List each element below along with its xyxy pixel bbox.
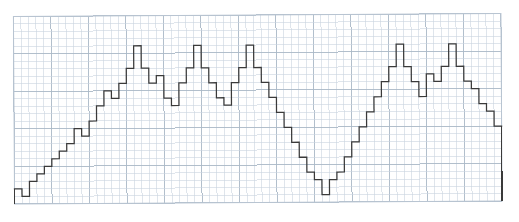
grid-line-horizontal-minor [14,96,501,99]
grid-line-vertical-minor [103,16,104,203]
grid-line-horizontal-minor [13,21,500,24]
grid-line-vertical-major [88,16,89,203]
grid-line-vertical-minor [478,14,479,201]
grid-line-horizontal-minor [14,156,501,159]
grid-line-vertical-major [201,15,202,202]
grid-line-horizontal-major [14,89,501,92]
grid-line-vertical-minor [73,16,74,203]
grid-line-vertical-minor [456,14,457,201]
grid-line-vertical-minor [448,14,449,201]
grid-line-vertical-minor [28,16,29,203]
grid-line-vertical-minor [411,14,412,201]
grid-border [13,14,502,204]
grid-line-horizontal-minor [14,59,501,62]
grid-line-vertical-minor [403,14,404,201]
grid-line-vertical-major [238,15,239,202]
grid-line-vertical-minor [306,15,307,202]
grid-line-vertical-minor [216,15,217,202]
grid-line-horizontal-minor [14,141,501,144]
grid-line-vertical-minor [66,16,67,203]
grid-line-horizontal-minor [14,104,501,107]
grid-line-vertical-minor [261,15,262,202]
grid-line-vertical-minor [118,16,119,203]
grid-line-horizontal-major [14,126,501,129]
grid-line-vertical-minor [171,16,172,203]
grid-line-horizontal-major [14,51,501,54]
grid-layer [13,14,502,204]
grid-line-vertical-minor [298,15,299,202]
grid-line-vertical-minor [253,15,254,202]
grid-line-vertical-minor [111,16,112,203]
grid-line-vertical-minor [246,15,247,202]
grid-line-vertical-minor [396,14,397,201]
grid-line-vertical-minor [328,15,329,202]
grid-line-vertical-minor [58,16,59,203]
grid-line-vertical-minor [358,14,359,201]
grid-line-horizontal-minor [14,149,501,152]
grid-line-vertical-minor [148,16,149,203]
grid-line-vertical-minor [283,15,284,202]
grid-line-horizontal-minor [15,194,502,197]
grid-line-vertical-minor [193,15,194,202]
figure-canvas [0,0,519,222]
grid-line-vertical-minor [493,14,494,201]
grid-line-horizontal-major [14,164,501,167]
grid-line-vertical-minor [178,15,179,202]
grid-line-vertical-major [163,16,164,203]
grid-line-vertical-minor [471,14,472,201]
grid-line-vertical-major [463,14,464,201]
grid-line-vertical-minor [231,15,232,202]
grid-line-vertical-minor [381,14,382,201]
grid-line-vertical-major [126,16,127,203]
grid-line-vertical-minor [186,15,187,202]
grid-line-vertical-minor [21,16,22,203]
step-plot-svg [0,0,519,222]
grid-line-horizontal-minor [14,111,501,114]
grid-line-horizontal-minor [14,36,501,39]
grid-line-vertical-minor [418,14,419,201]
grid-line-vertical-minor [223,15,224,202]
grid-line-vertical-minor [208,15,209,202]
grid-line-vertical-major [351,14,352,201]
grid-line-vertical-major [388,14,389,201]
grid-line-horizontal-minor [14,186,501,189]
grid-line-vertical-minor [268,15,269,202]
grid-line-vertical-minor [343,14,344,201]
grid-line-horizontal-minor [14,29,501,32]
grid-line-vertical-minor [81,16,82,203]
grid-line-vertical-minor [433,14,434,201]
grid-line-vertical-major [426,14,427,201]
grid-line-horizontal-minor [14,171,501,174]
grid-line-vertical-minor [441,14,442,201]
grid-line-vertical-minor [291,15,292,202]
grid-line-horizontal-minor [14,179,501,182]
grid-line-vertical-major [51,16,52,203]
grid-line-vertical-minor [141,16,142,203]
grid-line-vertical-minor [133,16,134,203]
grid-line-vertical-minor [366,14,367,201]
grid-line-vertical-minor [43,16,44,203]
grid-line-horizontal-minor [14,81,501,84]
grid-line-vertical-minor [156,16,157,203]
grid-line-vertical-minor [321,15,322,202]
grid-line-horizontal-minor [14,119,501,122]
grid-line-horizontal-minor [14,44,501,47]
